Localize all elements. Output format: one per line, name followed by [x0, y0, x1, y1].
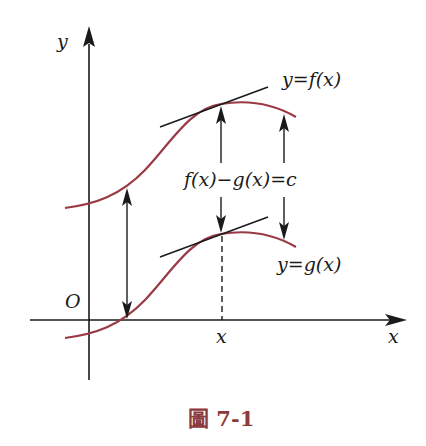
f-tangent-line: [160, 87, 268, 127]
y-axis-arrowhead: [83, 26, 95, 47]
g-curve: [65, 232, 296, 338]
x-point-label: x: [216, 325, 227, 347]
x-axis-label: x: [388, 325, 399, 347]
diagram-canvas: y x O x y=f(x) y=g(x) f(x)−g(x)=c 圖 7-1: [0, 0, 426, 446]
difference-label: f(x)−g(x)=c: [182, 168, 297, 190]
g-curve-label: y=g(x): [276, 253, 341, 275]
origin-label: O: [65, 290, 81, 312]
y-axis-label: y: [56, 30, 68, 52]
f-curve: [65, 102, 296, 208]
figure-caption: 圖 7-1: [188, 406, 254, 431]
g-tangent-line: [160, 217, 268, 257]
f-curve-label: y=f(x): [281, 68, 341, 90]
